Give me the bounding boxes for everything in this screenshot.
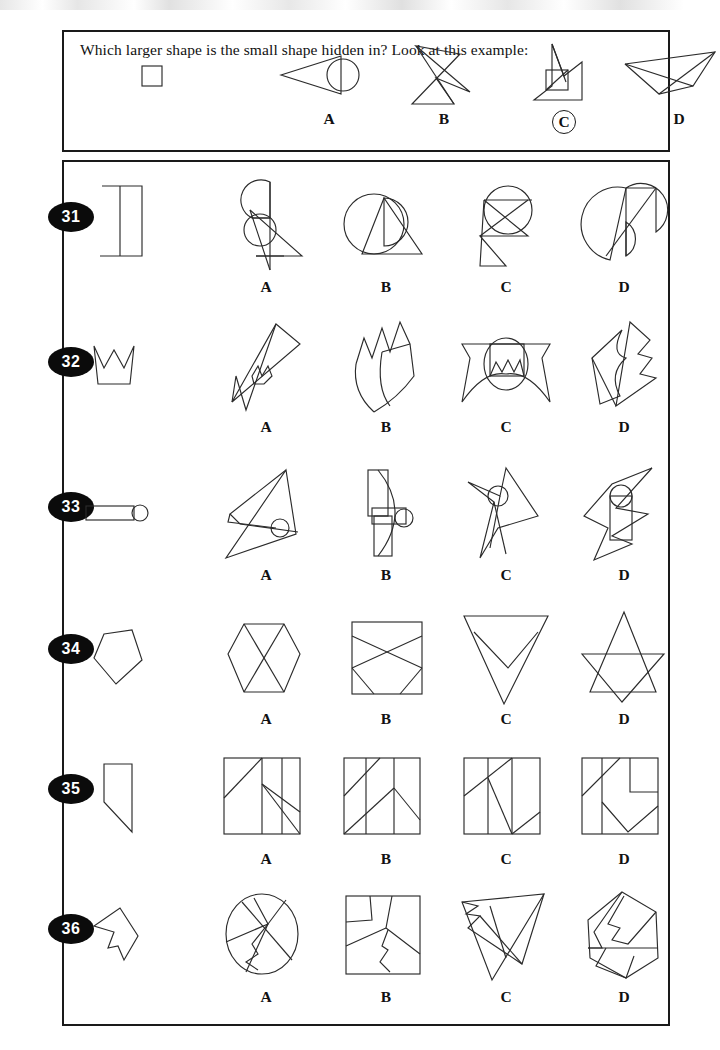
example-option-d-letter[interactable]: D [619,110,720,128]
stem-shape-36 [70,884,190,988]
option-d-letter-36[interactable]: D [564,988,684,1006]
option-b-shape-35[interactable] [326,746,446,850]
question-row-34: A B C [64,606,668,746]
scan-noise-band [0,0,705,10]
option-a-shape-34[interactable] [206,606,326,710]
stem-shape-34 [70,606,190,710]
option-a-shape-36[interactable] [206,884,326,988]
stem-shape-35 [70,746,190,850]
option-c-shape-33[interactable] [446,462,566,566]
option-c-shape-32[interactable] [446,314,566,418]
option-b-letter-33[interactable]: B [326,566,446,584]
option-b-shape-32[interactable] [326,314,446,418]
example-stem-shape [92,42,212,108]
option-d-shape-32[interactable] [564,314,684,418]
option-c-letter-36[interactable]: C [446,988,566,1006]
option-c-letter-33[interactable]: C [446,566,566,584]
question-row-32: A B C [64,314,668,454]
option-a-letter-32[interactable]: A [206,418,326,436]
option-a-letter-34[interactable]: A [206,710,326,728]
option-a-letter-31[interactable]: A [206,278,326,296]
example-option-a-shape[interactable] [269,42,389,108]
option-a-letter-33[interactable]: A [206,566,326,584]
option-d-letter-34[interactable]: D [564,710,684,728]
example-option-c-shape[interactable] [504,42,624,108]
example-option-a-letter[interactable]: A [269,110,389,128]
option-c-letter-35[interactable]: C [446,850,566,868]
question-row-35: A B C [64,746,668,886]
option-a-shape-31[interactable] [206,174,326,278]
question-row-33: A B C [64,462,668,602]
option-b-shape-36[interactable] [326,884,446,988]
option-d-letter-31[interactable]: D [564,278,684,296]
option-c-letter-32[interactable]: C [446,418,566,436]
option-b-shape-34[interactable] [326,606,446,710]
question-row-36: A B C [64,884,668,1024]
option-d-letter-35[interactable]: D [564,850,684,868]
option-a-shape-33[interactable] [206,462,326,566]
option-d-letter-32[interactable]: D [564,418,684,436]
option-d-shape-35[interactable] [564,746,684,850]
option-a-letter-36[interactable]: A [206,988,326,1006]
option-a-shape-32[interactable] [206,314,326,418]
option-c-shape-34[interactable] [446,606,566,710]
option-d-shape-34[interactable] [564,606,684,710]
option-c-shape-35[interactable] [446,746,566,850]
question-row-31: A B C [64,174,668,314]
stem-shape-33 [70,462,190,566]
option-d-shape-33[interactable] [564,462,684,566]
example-option-b-shape[interactable] [384,42,504,108]
example-option-c-letter[interactable]: C [504,110,624,134]
stem-shape-31 [70,174,190,278]
stem-shape-32 [70,314,190,418]
example-option-d-shape[interactable] [619,42,720,108]
option-c-shape-36[interactable] [446,884,566,988]
questions-box: 31 A [62,160,670,1026]
option-d-shape-31[interactable] [564,174,684,278]
example-box: Which larger shape is the small shape hi… [62,30,670,152]
option-d-letter-33[interactable]: D [564,566,684,584]
option-b-shape-31[interactable] [326,174,446,278]
option-c-letter-31[interactable]: C [446,278,566,296]
option-b-shape-33[interactable] [326,462,446,566]
option-d-shape-36[interactable] [564,884,684,988]
option-a-letter-35[interactable]: A [206,850,326,868]
option-b-letter-31[interactable]: B [326,278,446,296]
example-option-b-letter[interactable]: B [384,110,504,128]
option-c-letter-34[interactable]: C [446,710,566,728]
option-c-shape-31[interactable] [446,174,566,278]
option-b-letter-36[interactable]: B [326,988,446,1006]
option-b-letter-35[interactable]: B [326,850,446,868]
option-b-letter-32[interactable]: B [326,418,446,436]
option-a-shape-35[interactable] [206,746,326,850]
option-b-letter-34[interactable]: B [326,710,446,728]
